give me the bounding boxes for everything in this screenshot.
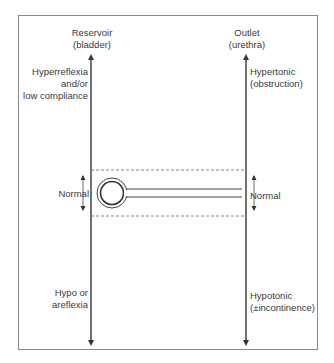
- reservoir-top-line3: low compliance: [10, 90, 88, 102]
- reservoir-title-line2: (bladder): [64, 39, 120, 51]
- urethra-tube-icon: [126, 189, 242, 197]
- outlet-title-line2: (urethra): [226, 39, 268, 51]
- outlet-bottom-line2: (±incontinence): [250, 302, 315, 314]
- reservoir-top-line1: Hyperreflexia: [10, 66, 88, 78]
- outlet-normal-label: Normal: [250, 190, 281, 202]
- reservoir-top-line2: and/or: [10, 78, 88, 90]
- outlet-top-line2: (obstruction): [250, 78, 303, 90]
- reservoir-hyperreflexia-label: Hyperreflexia and/or low compliance: [10, 66, 88, 102]
- reservoir-title-line1: Reservoir: [64, 27, 120, 39]
- outlet-hypotonic-label: Hypotonic (±incontinence): [250, 290, 315, 314]
- outlet-hypertonic-label: Hypertonic (obstruction): [250, 66, 303, 90]
- reservoir-normal-label: Normal: [40, 188, 89, 200]
- reservoir-bottom-line2: areflexia: [30, 299, 88, 311]
- reservoir-hypo-label: Hypo or areflexia: [30, 287, 88, 311]
- bladder-icon: [97, 178, 127, 208]
- outlet-title: Outlet (urethra): [226, 27, 268, 51]
- reservoir-title: Reservoir (bladder): [64, 27, 120, 51]
- outlet-bottom-line1: Hypotonic: [250, 290, 315, 302]
- outlet-top-line1: Hypertonic: [250, 66, 303, 78]
- outlet-title-line1: Outlet: [226, 27, 268, 39]
- reservoir-bottom-line1: Hypo or: [30, 287, 88, 299]
